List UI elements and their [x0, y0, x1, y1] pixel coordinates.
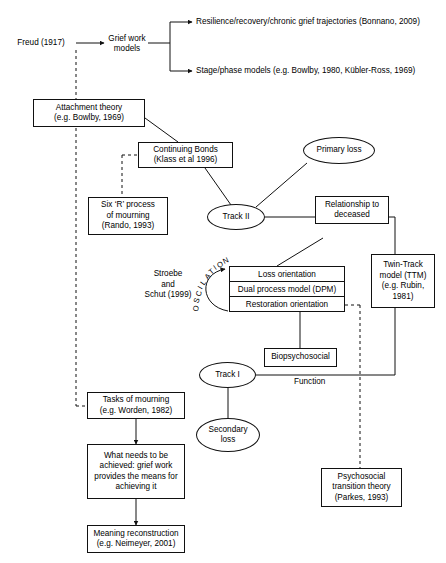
- edge-label-function-text: Function: [294, 377, 325, 386]
- dpm-row-dual-process-model[interactable]: Dual process model (DPM): [230, 281, 344, 296]
- dpm-row-loss-orientation-label: Loss orientation: [258, 270, 316, 279]
- node-biopsychosocial[interactable]: Biopsychosocial: [264, 348, 337, 367]
- node-dual-process-model[interactable]: Loss orientation Dual process model (DPM…: [229, 266, 345, 312]
- oscillation-char-i2: I: [212, 263, 219, 272]
- node-twin-track-model-label: Twin-Track model (TTM) (e.g. Rubin, 1981…: [380, 260, 427, 302]
- oscillation-char-n: N: [221, 255, 230, 265]
- node-secondary-loss[interactable]: Secondary loss: [196, 418, 260, 452]
- node-meaning-reconstruction[interactable]: Meaning reconstruction (e.g. Neimeyer, 2…: [87, 525, 185, 553]
- edge-attachment-to-continuing-bonds: [145, 118, 178, 142]
- dpm-row-dual-process-model-label: Dual process model (DPM): [238, 285, 336, 294]
- node-grief-work-models-label: Grief work models: [108, 34, 145, 55]
- node-resilience-label: Resilience/recovery/chronic grief trajec…: [196, 17, 420, 28]
- node-biopsychosocial-label: Biopsychosocial: [271, 352, 330, 363]
- node-secondary-loss-label: Secondary loss: [208, 425, 247, 446]
- edge-continuing-bonds-to-track-two: [205, 168, 231, 205]
- node-continuing-bonds[interactable]: Continuing Bonds (Klass et al 1996): [138, 142, 233, 168]
- concept-map-diagram: Freud (1917) Grief work models Resilienc…: [0, 0, 446, 563]
- edge-relationship-to-dpm: [277, 238, 323, 266]
- node-relationship-to-deceased-label: Relationship to deceased: [325, 200, 379, 221]
- oscillation-char-a: A: [203, 272, 213, 282]
- node-twin-track-model[interactable]: Twin-Track model (TTM) (e.g. Rubin, 1981…: [371, 254, 435, 308]
- node-stage-phase-models[interactable]: Stage/phase models (e.g. Bowlby, 1980, K…: [196, 63, 444, 79]
- node-what-needs-achieved-label: What needs to be achieved: grief work pr…: [94, 451, 177, 493]
- node-six-r-process[interactable]: Six ‘R’ process of mourning (Rando, 1993…: [88, 197, 168, 235]
- edge-primary-loss-to-track-two: [256, 163, 307, 207]
- dpm-row-restoration-orientation[interactable]: Restoration orientation: [230, 296, 344, 311]
- node-tasks-of-mourning-label: Tasks of mourning (e.g. Worden, 1982): [100, 395, 173, 416]
- node-primary-loss[interactable]: Primary loss: [303, 137, 375, 164]
- oscillation-char-t: T: [207, 267, 216, 277]
- node-stroebe-schut[interactable]: Stroebe and Schut (1999): [138, 267, 198, 303]
- node-resilience-trajectories[interactable]: Resilience/recovery/chronic grief trajec…: [196, 14, 444, 30]
- oscillation-arc: [206, 269, 228, 311]
- node-what-needs-achieved[interactable]: What needs to be achieved: grief work pr…: [87, 444, 185, 499]
- node-relationship-to-deceased[interactable]: Relationship to deceased: [315, 196, 389, 224]
- node-stroebe-schut-label: Stroebe and Schut (1999): [145, 269, 192, 301]
- node-attachment-theory-label: Attachment theory (e.g. Bowlby, 1969): [54, 103, 124, 124]
- edge-label-function: Function: [294, 377, 325, 386]
- node-freud-label: Freud (1917): [17, 38, 64, 49]
- node-meaning-reconstruction-label: Meaning reconstruction (e.g. Neimeyer, 2…: [93, 529, 178, 550]
- node-track-one[interactable]: Track I: [199, 362, 256, 388]
- dpm-row-restoration-orientation-label: Restoration orientation: [246, 300, 328, 309]
- node-freud[interactable]: Freud (1917): [6, 34, 76, 52]
- oscillation-char-l: L: [198, 278, 208, 287]
- node-continuing-bonds-label: Continuing Bonds (Klass et al 1996): [153, 145, 218, 166]
- node-track-one-label: Track I: [215, 370, 240, 381]
- oscillation-char-o2: O: [215, 259, 225, 270]
- dpm-row-loss-orientation[interactable]: Loss orientation: [230, 267, 344, 281]
- node-psychosocial-transition-theory[interactable]: Psychosocial transition theory (Parkes, …: [321, 468, 402, 507]
- node-track-two[interactable]: Track II: [207, 204, 265, 230]
- node-tasks-of-mourning[interactable]: Tasks of mourning (e.g. Worden, 1982): [87, 392, 185, 419]
- node-psychosocial-transition-theory-label: Psychosocial transition theory (Parkes, …: [332, 472, 390, 504]
- node-six-r-process-label: Six ‘R’ process of mourning (Rando, 1993…: [101, 200, 155, 232]
- node-primary-loss-label: Primary loss: [316, 145, 361, 156]
- node-grief-work-models[interactable]: Grief work models: [104, 32, 150, 56]
- node-track-two-label: Track II: [223, 212, 250, 223]
- node-attachment-theory[interactable]: Attachment theory (e.g. Bowlby, 1969): [33, 99, 145, 127]
- node-stage-phase-label: Stage/phase models (e.g. Bowlby, 1980, K…: [196, 66, 415, 77]
- oscillation-char-o: O: [191, 304, 202, 313]
